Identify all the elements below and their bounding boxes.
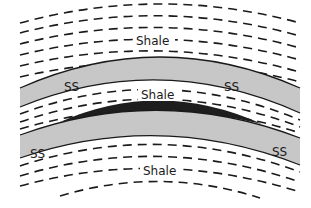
anticline-diagram: Shale Shale Shale SS SS SS SS	[0, 0, 311, 208]
label-ss-bottom-right: SS	[272, 145, 287, 159]
label-shale-top: Shale	[136, 34, 169, 48]
label-shale-bottom: Shale	[143, 164, 176, 178]
label-shale-middle: Shale	[141, 88, 174, 102]
label-ss-top-right: SS	[224, 80, 239, 94]
label-ss-top-left: SS	[64, 80, 79, 94]
label-ss-bottom-left: SS	[30, 147, 45, 161]
